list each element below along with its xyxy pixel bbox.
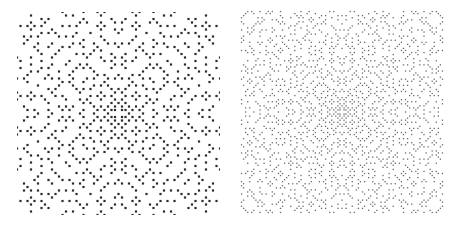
left-dot-pattern-canvas (17, 12, 220, 215)
right-dot-pattern-canvas (240, 10, 444, 214)
left-dot-pattern-panel (17, 12, 220, 215)
right-dot-pattern-panel (240, 10, 444, 214)
